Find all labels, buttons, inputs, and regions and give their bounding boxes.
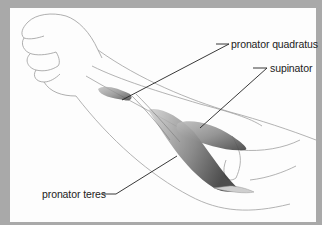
leader-lines	[102, 44, 267, 194]
label-pronator-quadratus: pronator quadratus	[231, 38, 318, 50]
label-pronator-teres: pronator teres	[42, 188, 106, 200]
pronator-quadratus-muscle	[98, 87, 132, 101]
fist-outline	[22, 14, 102, 96]
label-supinator: supinator	[270, 62, 312, 74]
